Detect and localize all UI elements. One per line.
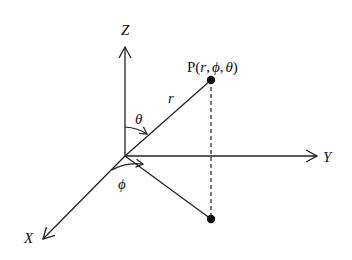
projection-line <box>125 156 211 219</box>
y-axis-label: Y <box>323 149 333 165</box>
x-axis-label: X <box>23 230 34 246</box>
z-axis-label: Z <box>121 22 130 38</box>
point-p <box>207 76 215 84</box>
spherical-coordinates-diagram: Z Y X r P(r,ϕ,θ) θ ϕ <box>0 0 352 260</box>
point-label: P(r,ϕ,θ) <box>187 59 238 76</box>
theta-arc <box>125 127 147 134</box>
x-axis <box>43 156 125 239</box>
theta-label: θ <box>135 111 143 127</box>
radius-label: r <box>168 90 174 106</box>
point-projection <box>207 215 215 223</box>
phi-label: ϕ <box>118 176 126 192</box>
